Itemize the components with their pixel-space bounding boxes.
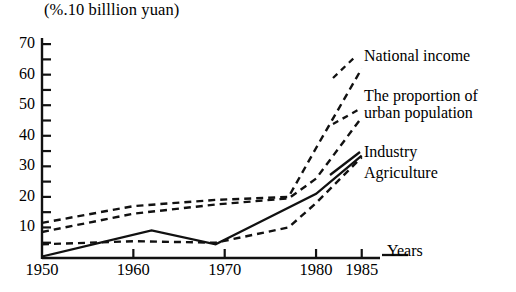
series-label-national-income: National income xyxy=(364,48,470,65)
series-label-urban-line2: urban population xyxy=(364,104,473,121)
x-axis-title: Years xyxy=(387,243,423,260)
y-tick-label: 50 xyxy=(5,96,35,113)
y-tick-label: 20 xyxy=(5,188,35,205)
y-tick-label: 60 xyxy=(5,66,35,83)
series-label-agriculture: Agriculture xyxy=(364,165,438,182)
legend-line-marker xyxy=(333,56,356,78)
series-label-urban-proportion: The proportion ofurban population xyxy=(364,88,478,122)
y-tick-label: 30 xyxy=(5,157,35,174)
x-tick-label: 1970 xyxy=(197,261,253,278)
chart-series-group xyxy=(42,69,362,257)
chart-axes xyxy=(42,38,380,259)
chart-plot-area xyxy=(0,0,516,292)
y-axis-major-ticks xyxy=(42,44,51,227)
y-tick-label: 70 xyxy=(5,35,35,52)
y-axis-minor-ticks xyxy=(42,59,51,242)
series-label-industry: Industry xyxy=(364,144,417,161)
x-tick-label: 1985 xyxy=(334,261,390,278)
x-tick-label: 1950 xyxy=(14,261,70,278)
x-axis-ticks xyxy=(133,249,361,258)
y-tick-label: 40 xyxy=(5,127,35,144)
legend-line-marker xyxy=(333,110,358,124)
x-tick-label: 1960 xyxy=(105,261,161,278)
series-label-urban-line1: The proportion of xyxy=(364,87,478,104)
y-tick-label: 10 xyxy=(5,218,35,235)
chart-container: (%.10 billlion yuan) 10203040506070 1950… xyxy=(0,0,516,292)
series-line xyxy=(42,69,362,223)
